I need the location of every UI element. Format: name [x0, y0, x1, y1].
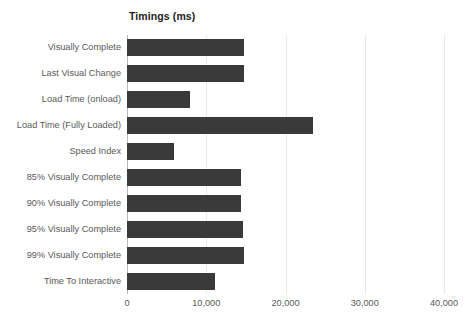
bar[interactable]: [127, 39, 244, 56]
bar[interactable]: [127, 273, 215, 290]
bar-row: [127, 39, 444, 56]
x-axis-tick-label: 10,000: [192, 298, 220, 308]
y-axis-label: Load Time (Fully Loaded): [0, 120, 121, 131]
y-axis-label: Last Visual Change: [0, 68, 121, 79]
bar-row: [127, 65, 444, 82]
bar-row: [127, 91, 444, 108]
y-axis-label: Visually Complete: [0, 42, 121, 53]
y-axis-category-labels: Visually CompleteLast Visual ChangeLoad …: [0, 35, 121, 294]
bar-row: [127, 195, 444, 212]
bar-row: [127, 221, 444, 238]
bars-layer: [127, 35, 444, 294]
y-axis-label: 99% Visually Complete: [0, 250, 121, 261]
x-axis-tick-label: 0: [124, 298, 129, 308]
y-axis-label: 85% Visually Complete: [0, 172, 121, 183]
x-axis-tick-labels: 010,00020,00030,00040,000: [127, 298, 444, 318]
plot-area: [127, 35, 444, 294]
gridline-40000: [444, 35, 445, 294]
y-axis-label: 90% Visually Complete: [0, 198, 121, 209]
chart-title: Timings (ms): [129, 10, 195, 22]
bar[interactable]: [127, 169, 241, 186]
bar[interactable]: [127, 143, 174, 160]
x-axis-tick-label: 40,000: [430, 298, 458, 308]
bar[interactable]: [127, 117, 313, 134]
bar-row: [127, 273, 444, 290]
y-axis-label: Time To Interactive: [0, 276, 121, 287]
bar-row: [127, 143, 444, 160]
x-axis-tick-label: 30,000: [351, 298, 379, 308]
bar[interactable]: [127, 247, 244, 264]
x-axis-tick-label: 20,000: [271, 298, 299, 308]
bar-row: [127, 247, 444, 264]
bar-row: [127, 117, 444, 134]
bar[interactable]: [127, 65, 244, 82]
y-axis-label: Speed Index: [0, 146, 121, 157]
bar[interactable]: [127, 91, 190, 108]
y-axis-label: Load Time (onload): [0, 94, 121, 105]
bar[interactable]: [127, 221, 243, 238]
bar-row: [127, 169, 444, 186]
y-axis-label: 95% Visually Complete: [0, 224, 121, 235]
timings-bar-chart: Timings (ms) Visually CompleteLast Visua…: [0, 0, 476, 327]
bar[interactable]: [127, 195, 241, 212]
